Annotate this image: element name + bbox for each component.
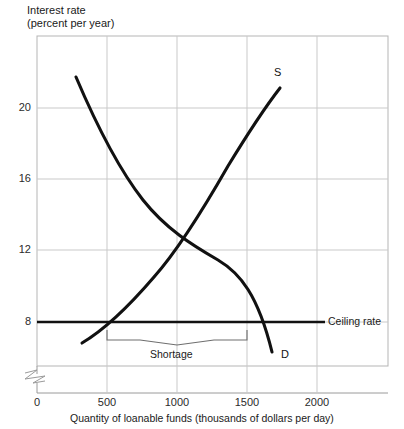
x-tick-label-500: 500 — [87, 396, 127, 408]
supply-curve-label: S — [274, 66, 281, 78]
x-tick-label-2000: 2000 — [297, 396, 337, 408]
y-tick-label-16: 16 — [7, 172, 31, 184]
x-tick-label-0: 0 — [17, 396, 57, 408]
y-tick-label-8: 8 — [7, 315, 31, 327]
x-tick-label-1000: 1000 — [157, 396, 197, 408]
x-axis-title: Quantity of loanable funds (thousands of… — [70, 412, 334, 425]
chart-canvas — [0, 0, 404, 429]
y-axis-break-icon — [25, 370, 45, 383]
axis-lines — [25, 366, 388, 393]
y-tick-label-20: 20 — [7, 101, 31, 113]
y-tick-label-12: 12 — [7, 243, 31, 255]
interest-rate-loanable-funds-chart: Interest rate(percent per year) — [0, 0, 404, 429]
ceiling-rate-label: Ceiling rate — [328, 315, 381, 327]
x-tick-label-1500: 1500 — [227, 396, 267, 408]
shortage-label: Shortage — [150, 348, 193, 360]
demand-curve-label: D — [281, 348, 289, 360]
